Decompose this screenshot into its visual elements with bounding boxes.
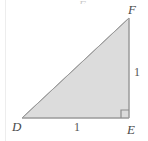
- vertex-label-D: D: [12, 120, 21, 133]
- clipped-glyph-artifact: F: [79, 0, 88, 4]
- side-length-label-DE: 1: [74, 121, 80, 133]
- vertex-label-F: F: [128, 3, 136, 16]
- side-length-label-EF: 1: [134, 66, 140, 78]
- vertex-label-E: E: [127, 123, 135, 136]
- geometry-figure: D E F 1 1 F: [0, 0, 148, 141]
